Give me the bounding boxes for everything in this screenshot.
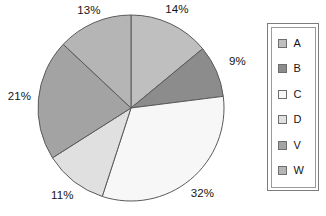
legend-swatch-icon [278, 141, 287, 150]
pie-svg [0, 0, 262, 216]
legend-swatch-icon [278, 39, 287, 48]
slice-label-v: 21% [8, 92, 31, 104]
legend-item-a[interactable]: A [278, 36, 301, 50]
legend-item-label: V [294, 140, 301, 151]
slice-label-d: 11% [51, 191, 73, 203]
slice-label-w: 13% [77, 5, 100, 17]
legend: ABCDVW [267, 23, 319, 191]
legend-item-c[interactable]: C [278, 87, 302, 101]
legend-item-label: W [294, 165, 304, 176]
slice-label-c: 32% [191, 189, 214, 201]
legend-item-w[interactable]: W [278, 164, 304, 178]
pie-slice-group [38, 15, 224, 201]
legend-swatch-icon [278, 90, 287, 99]
legend-item-label: D [294, 114, 302, 125]
slice-label-a: 14% [165, 5, 188, 17]
legend-item-label: B [294, 63, 301, 74]
legend-item-d[interactable]: D [278, 113, 302, 127]
legend-item-b[interactable]: B [278, 62, 301, 76]
legend-item-label: C [294, 89, 302, 100]
pie-chart-figure: 14% 9% 32% 11% 21% 13% ABCDVW [0, 0, 326, 216]
legend-item-v[interactable]: V [278, 138, 301, 152]
legend-items: ABCDVW [271, 27, 316, 188]
legend-swatch-icon [278, 115, 287, 124]
legend-item-label: A [294, 38, 301, 49]
slice-label-b: 9% [229, 56, 246, 68]
legend-swatch-icon [278, 64, 287, 73]
legend-swatch-icon [278, 166, 287, 175]
pie-plot-area: 14% 9% 32% 11% 21% 13% [0, 0, 262, 216]
